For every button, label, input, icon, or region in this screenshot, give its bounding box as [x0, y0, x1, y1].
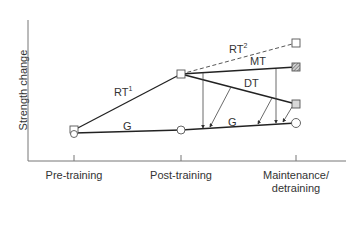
- label-mt: MT: [250, 55, 266, 67]
- marker-rt2-square: [292, 39, 300, 47]
- label-rt2-base: RT: [229, 43, 243, 55]
- line-dt: [181, 74, 296, 104]
- label-rt2-sup: 2: [243, 42, 247, 49]
- x-tick-label-post: Post-training: [146, 169, 216, 181]
- marker-g-circle: [292, 119, 301, 128]
- arrow-dt-mid: [258, 98, 272, 124]
- label-g-post: G: [228, 116, 237, 128]
- arrow-dt-right: [283, 107, 292, 122]
- marker-post-circle: [177, 126, 185, 134]
- line-g-maint: [181, 123, 296, 130]
- marker-pre-circle: [71, 131, 78, 138]
- x-tick-label-maint-line2: detraining: [272, 182, 320, 194]
- line-mt: [181, 67, 296, 74]
- marker-mt-hatched-square: [292, 63, 300, 71]
- y-axis-label: Strength change: [17, 45, 29, 135]
- x-tick-label-maint: Maintenance/detraining: [256, 169, 336, 195]
- x-tick-label-pre: Pre-training: [44, 169, 104, 181]
- label-rt1: RT1: [114, 86, 132, 98]
- marker-post-square: [177, 70, 185, 78]
- label-rt1-sup: 1: [128, 85, 132, 92]
- label-rt2: RT2: [229, 43, 247, 55]
- label-dt: DT: [244, 77, 259, 89]
- label-rt1-base: RT: [114, 86, 128, 98]
- x-tick-label-maint-line1: Maintenance/: [263, 169, 329, 181]
- markers: [70, 39, 301, 138]
- marker-dt-square: [292, 100, 300, 108]
- label-g-pre: G: [123, 120, 132, 132]
